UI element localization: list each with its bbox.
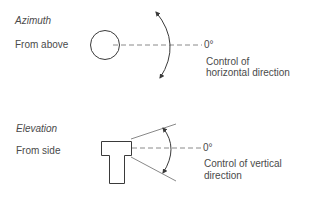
azimuth-zero-label: 0° bbox=[204, 39, 214, 51]
elevation-caption-line2: direction bbox=[204, 170, 242, 182]
azimuth-view-label: From above bbox=[15, 39, 68, 51]
elevation-upper-limit-line bbox=[131, 124, 176, 139]
elevation-zero-label: 0° bbox=[203, 142, 213, 154]
azimuth-caption-line2: horizontal direction bbox=[206, 67, 290, 79]
side-view-t-shape bbox=[102, 142, 132, 184]
elevation-arc-arrow bbox=[163, 128, 171, 173]
diagram-canvas bbox=[0, 0, 320, 208]
elevation-diagram bbox=[102, 124, 202, 184]
azimuth-diagram bbox=[91, 12, 203, 78]
elevation-caption-line1: Control of vertical bbox=[204, 158, 282, 170]
azimuth-title: Azimuth bbox=[15, 15, 51, 27]
elevation-view-label: From side bbox=[16, 145, 60, 157]
elevation-title: Elevation bbox=[16, 123, 57, 135]
